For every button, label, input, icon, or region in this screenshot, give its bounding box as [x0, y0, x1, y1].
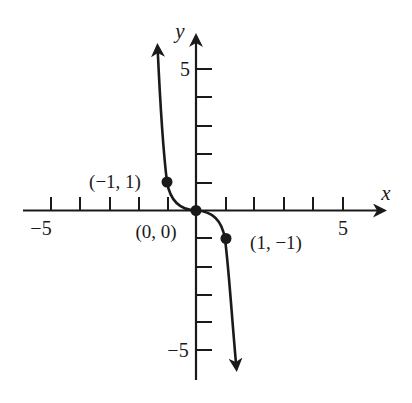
function-curve [158, 46, 168, 182]
point-neg1-1 [162, 177, 173, 188]
point-label-origin: (0, 0) [135, 221, 176, 243]
point-label-neg1-1: (−1, 1) [89, 171, 141, 193]
x-axis-label: x [380, 181, 391, 205]
point-origin [191, 205, 202, 216]
x-tick-label-pos5: 5 [338, 217, 348, 239]
x-axis: −5 5 x [23, 181, 391, 239]
y-axis-label: y [173, 19, 185, 43]
x-tick-label-neg5: −5 [30, 217, 51, 239]
y-tick-label-neg5: −5 [167, 339, 188, 361]
point-label-1-neg1: (1, −1) [250, 232, 302, 254]
point-1-neg1 [221, 233, 232, 244]
function-curve-lower [225, 239, 237, 369]
y-tick-label-pos5: 5 [180, 58, 190, 80]
function-graph: −5 5 x 5 −5 y (−1, 1) (0, 0) (1, −1) [0, 0, 412, 403]
